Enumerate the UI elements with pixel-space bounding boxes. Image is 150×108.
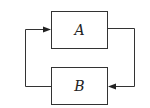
block-b-label: B [73, 78, 84, 94]
edge-b-to-a [26, 27, 52, 87]
block-a-label: A [72, 22, 84, 38]
edge-a-to-b [108, 29, 135, 90]
arrowhead-icon [108, 84, 116, 90]
arrowhead-icon [43, 27, 51, 33]
feedback-diagram: A B [0, 0, 150, 108]
block-a: A [52, 12, 108, 49]
block-b: B [52, 68, 108, 105]
